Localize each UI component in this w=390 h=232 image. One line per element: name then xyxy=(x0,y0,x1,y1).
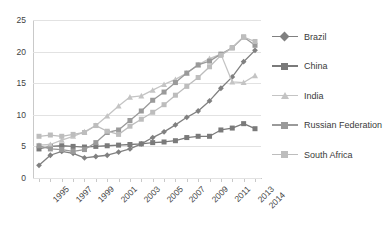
y-tick-label-5: 5 xyxy=(0,142,26,150)
x-tick-mark-1995 xyxy=(39,179,40,182)
legend-label: Brazil xyxy=(304,32,327,42)
x-tick-mark-1996 xyxy=(50,179,51,182)
x-tick-mark-2002 xyxy=(119,179,120,182)
gridline-0 xyxy=(33,178,261,179)
x-tick-mark-1999 xyxy=(84,179,85,182)
x-tick-mark-2010 xyxy=(210,179,211,182)
legend-item-south-africa[interactable]: South Africa xyxy=(272,140,388,170)
x-tick-mark-2000 xyxy=(96,179,97,182)
legend-swatch-square-icon xyxy=(272,60,298,72)
x-tick-label-2011: 2011 xyxy=(232,184,252,204)
legend-swatch-triangle-icon xyxy=(272,90,298,102)
x-tick-label-1999: 1999 xyxy=(96,184,116,204)
x-tick-mark-1997 xyxy=(62,179,63,182)
legend-label: South Africa xyxy=(304,150,353,160)
line-chart: 0510152025 19951997199920012003200520072… xyxy=(0,0,390,232)
legend-swatch-square-icon xyxy=(272,119,298,131)
legend-item-india[interactable]: India xyxy=(272,81,388,111)
legend-label: India xyxy=(304,91,324,101)
x-tick-label-2001: 2001 xyxy=(119,184,139,204)
legend-label: China xyxy=(304,61,328,71)
x-tick-label-1997: 1997 xyxy=(73,184,93,204)
legend-swatch-square-icon xyxy=(272,149,298,161)
x-tick-label-2009: 2009 xyxy=(210,184,230,204)
x-tick-mark-2001 xyxy=(107,179,108,182)
x-tick-mark-2007 xyxy=(175,179,176,182)
x-tick-mark-2012 xyxy=(232,179,233,182)
y-tick-label-0: 0 xyxy=(0,174,26,182)
x-tick-label-2007: 2007 xyxy=(187,184,207,204)
series-india xyxy=(36,51,258,148)
x-tick-mark-2014 xyxy=(255,179,256,182)
series-south-africa xyxy=(37,35,258,139)
x-tick-label-2005: 2005 xyxy=(164,184,184,204)
x-tick-mark-2008 xyxy=(187,179,188,182)
y-tick-label-10: 10 xyxy=(0,111,26,119)
series-brazil xyxy=(36,47,258,168)
y-tick-label-25: 25 xyxy=(0,16,26,24)
y-tick-label-15: 15 xyxy=(0,79,26,87)
x-tick-mark-2003 xyxy=(130,179,131,182)
x-tick-mark-2005 xyxy=(153,179,154,182)
x-tick-mark-2009 xyxy=(198,179,199,182)
x-tick-mark-2004 xyxy=(141,179,142,182)
series-plot xyxy=(33,20,261,178)
legend-item-china[interactable]: China xyxy=(272,52,388,82)
legend-item-russian-federation[interactable]: Russian Federation xyxy=(272,111,388,141)
legend-label: Russian Federation xyxy=(304,120,382,130)
legend: BrazilChinaIndiaRussian FederationSouth … xyxy=(272,22,388,170)
y-tick-label-20: 20 xyxy=(0,48,26,56)
x-tick-mark-2006 xyxy=(164,179,165,182)
x-tick-mark-2011 xyxy=(221,179,222,182)
series-china xyxy=(37,121,258,151)
x-tick-mark-1998 xyxy=(73,179,74,182)
x-tick-label-2003: 2003 xyxy=(141,184,161,204)
legend-item-brazil[interactable]: Brazil xyxy=(272,22,388,52)
x-tick-label-1995: 1995 xyxy=(51,184,71,204)
legend-swatch-diamond-icon xyxy=(272,31,298,43)
x-tick-mark-2013 xyxy=(244,179,245,182)
